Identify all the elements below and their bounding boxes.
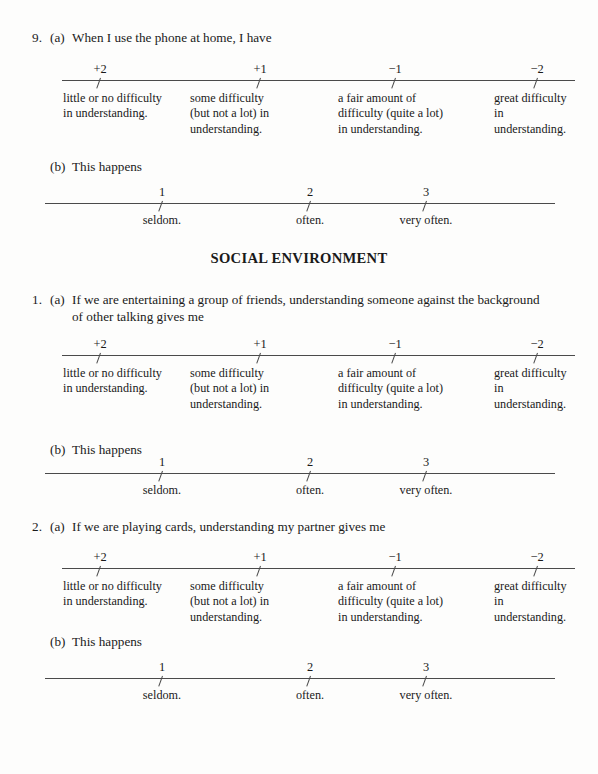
tick-value: 2: [307, 660, 313, 674]
tick-value: 1: [159, 185, 165, 199]
tick-value: +1: [253, 337, 266, 351]
scale-label-plus1: some difficulty (but not a lot) in under…: [190, 366, 269, 412]
tick-value: +2: [93, 337, 106, 351]
question-9a-text: When I use the phone at home, I have: [72, 30, 578, 47]
question-1a: 1. (a) If we are entertaining a group of…: [22, 292, 582, 325]
question-1b-text: This happens: [72, 442, 578, 459]
scale-label-often: often.: [296, 213, 324, 228]
scale-label-seldom: seldom.: [143, 483, 181, 498]
scale-axis-line: [45, 203, 555, 204]
scale-label-minus1: a fair amount of difficulty (quite a lot…: [338, 91, 443, 137]
question-1a-letter: (a): [42, 292, 72, 309]
scale-axis-line: [62, 80, 575, 81]
tick-value: −2: [530, 550, 543, 564]
tick-value: 3: [423, 185, 429, 199]
question-1a-text-line1: If we are entertaining a group of friend…: [72, 292, 540, 307]
question-9b-letter: (b): [42, 159, 72, 176]
tick-value: −1: [388, 550, 401, 564]
question-1a-text: If we are entertaining a group of friend…: [72, 292, 582, 325]
scale-label-minus2: great difficulty in understanding.: [494, 366, 575, 412]
scale-label-plus1: some difficulty (but not a lot) in under…: [190, 91, 269, 137]
question-2b: (b) This happens: [42, 634, 578, 651]
tick-value: −2: [530, 337, 543, 351]
question-2b-text: This happens: [72, 634, 578, 651]
scale-label-seldom: seldom.: [143, 213, 181, 228]
scale-label-plus1: some difficulty (but not a lot) in under…: [190, 579, 269, 625]
question-2a: 2. (a) If we are playing cards, understa…: [22, 519, 578, 536]
question-1b-letter: (b): [42, 442, 72, 459]
tick-value: +2: [93, 62, 106, 76]
tick-value: +1: [253, 550, 266, 564]
scale-axis-line: [45, 473, 555, 474]
tick-value: +2: [93, 550, 106, 564]
scale-label-often: often.: [296, 688, 324, 703]
scale-axis-line: [45, 678, 555, 679]
scale-axis-line: [62, 355, 575, 356]
section-heading-social-environment: SOCIAL ENVIRONMENT: [0, 250, 598, 267]
question-9a-letter: (a): [42, 30, 72, 47]
tick-value: −1: [388, 62, 401, 76]
question-2a-text: If we are playing cards, understanding m…: [72, 519, 578, 536]
tick-value: 1: [159, 660, 165, 674]
scale-label-minus1: a fair amount of difficulty (quite a lot…: [338, 579, 443, 625]
scale-label-often: often.: [296, 483, 324, 498]
tick-value: 1: [159, 455, 165, 469]
scale-label-minus2: great difficulty in understanding.: [494, 91, 575, 137]
scale-label-very-often: very often.: [400, 688, 453, 703]
scale-axis-line: [62, 568, 575, 569]
question-9b: (b) This happens: [42, 159, 578, 176]
tick-value: 2: [307, 185, 313, 199]
scale-label-plus2: little or no difficulty in understanding…: [63, 366, 162, 397]
scale-label-plus2: little or no difficulty in understanding…: [63, 91, 162, 122]
question-9a: 9. (a) When I use the phone at home, I h…: [22, 30, 578, 47]
question-2-number: 2.: [22, 519, 42, 536]
scale-label-plus2: little or no difficulty in understanding…: [63, 579, 162, 610]
question-1-number: 1.: [22, 292, 42, 309]
tick-value: 3: [423, 660, 429, 674]
scale-label-very-often: very often.: [400, 213, 453, 228]
tick-value: −2: [530, 62, 543, 76]
question-2a-letter: (a): [42, 519, 72, 536]
tick-value: 3: [423, 455, 429, 469]
scale-label-minus2: great difficulty in understanding.: [494, 579, 575, 625]
scale-label-seldom: seldom.: [143, 688, 181, 703]
scale-label-minus1: a fair amount of difficulty (quite a lot…: [338, 366, 443, 412]
tick-value: −1: [388, 337, 401, 351]
question-9b-text: This happens: [72, 159, 578, 176]
question-2b-letter: (b): [42, 634, 72, 651]
question-9-number: 9.: [22, 30, 42, 47]
question-1a-text-line2: of other talking gives me: [72, 309, 582, 326]
questionnaire-page: 9. (a) When I use the phone at home, I h…: [0, 0, 598, 774]
tick-value: 2: [307, 455, 313, 469]
tick-value: +1: [253, 62, 266, 76]
scale-label-very-often: very often.: [400, 483, 453, 498]
